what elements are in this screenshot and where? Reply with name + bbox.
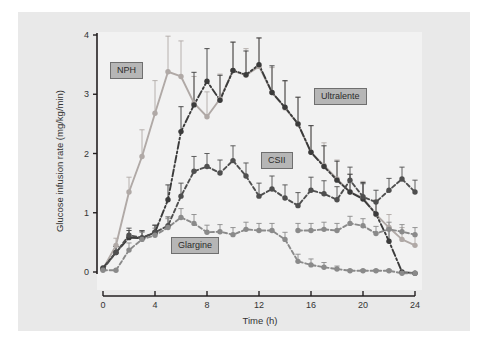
data-point <box>360 268 365 273</box>
data-point <box>178 193 183 198</box>
x-tick-label: 8 <box>204 300 209 310</box>
data-point <box>347 268 352 273</box>
data-point <box>230 232 235 237</box>
data-point <box>191 169 196 174</box>
data-point <box>256 228 261 233</box>
data-point <box>243 227 248 232</box>
data-point <box>412 270 417 275</box>
data-point <box>256 193 261 198</box>
data-point <box>321 164 326 169</box>
data-point <box>243 173 248 178</box>
x-tick-label: 20 <box>358 300 368 310</box>
data-point <box>139 154 144 159</box>
data-point <box>295 203 300 208</box>
data-point <box>165 197 170 202</box>
series-lines-group <box>103 65 415 274</box>
x-tick-label: 0 <box>100 300 105 310</box>
x-tick-label: 16 <box>306 300 316 310</box>
data-point <box>373 199 378 204</box>
chart-svg-wrapper: 0123404812162024 Time (h) Glucose infusi… <box>0 0 486 343</box>
data-point <box>386 238 391 243</box>
data-point <box>334 197 339 202</box>
data-point <box>308 262 313 267</box>
y-axis-title: Glucose infusion rate (mg/kg/min) <box>54 90 65 232</box>
x-tick-label: 4 <box>152 300 157 310</box>
data-point <box>269 90 274 95</box>
data-point <box>412 189 417 194</box>
figure-root: 0123404812162024 Time (h) Glucose infusi… <box>0 0 486 343</box>
data-point <box>373 211 378 216</box>
data-point <box>373 231 378 236</box>
data-point <box>412 232 417 237</box>
data-point <box>399 237 404 242</box>
data-point <box>295 259 300 264</box>
x-axis-title: Time (h) <box>242 315 277 326</box>
data-point <box>269 186 274 191</box>
data-point <box>308 188 313 193</box>
series-label-nph: NPH <box>110 62 143 79</box>
glucose-infusion-rate-chart: 0123404812162024 Time (h) Glucose infusi… <box>0 0 486 343</box>
data-point <box>191 221 196 226</box>
data-point <box>217 229 222 234</box>
data-point <box>269 228 274 233</box>
data-point <box>230 158 235 163</box>
series-label-csii: CSII <box>261 152 293 169</box>
data-point <box>217 170 222 175</box>
series-line-nph <box>103 66 415 269</box>
data-point <box>204 79 209 84</box>
data-point <box>204 164 209 169</box>
data-point <box>360 194 365 199</box>
data-point <box>347 189 352 194</box>
data-point <box>360 223 365 228</box>
data-point <box>178 129 183 134</box>
data-point <box>334 228 339 233</box>
data-point <box>113 243 118 248</box>
data-point <box>165 69 170 74</box>
data-point <box>230 68 235 73</box>
data-point <box>256 62 261 67</box>
data-point <box>412 243 417 248</box>
data-point <box>178 215 183 220</box>
data-point <box>100 268 105 273</box>
data-point <box>126 189 131 194</box>
data-point <box>399 270 404 275</box>
data-point <box>139 237 144 242</box>
data-point <box>321 191 326 196</box>
y-tick-label: 1 <box>84 208 89 218</box>
data-point <box>295 228 300 233</box>
data-point <box>178 74 183 79</box>
data-point <box>282 195 287 200</box>
series-line-csii <box>103 161 415 269</box>
data-point <box>295 121 300 126</box>
data-point <box>113 268 118 273</box>
data-point <box>347 221 352 226</box>
series-label-ultralente: Ultralente <box>314 88 367 105</box>
data-point <box>113 250 118 255</box>
data-point <box>308 228 313 233</box>
data-point <box>386 268 391 273</box>
y-tick-label: 0 <box>84 267 89 277</box>
data-point <box>399 176 404 181</box>
data-point <box>399 229 404 234</box>
data-point <box>334 266 339 271</box>
data-point <box>386 188 391 193</box>
data-point <box>152 111 157 116</box>
data-point <box>126 233 131 238</box>
data-point <box>386 227 391 232</box>
data-point <box>334 177 339 182</box>
data-point <box>282 105 287 110</box>
data-point <box>243 72 248 77</box>
data-point <box>282 237 287 242</box>
data-point <box>308 150 313 155</box>
data-point <box>204 114 209 119</box>
y-tick-label: 4 <box>84 30 89 40</box>
data-point <box>204 230 209 235</box>
data-point <box>126 247 131 252</box>
y-tick-label: 2 <box>84 149 89 159</box>
data-point <box>217 97 222 102</box>
data-point <box>347 177 352 182</box>
data-point <box>165 225 170 230</box>
x-tick-label: 12 <box>254 300 264 310</box>
data-point <box>321 227 326 232</box>
series-line-ultralente <box>103 65 415 274</box>
